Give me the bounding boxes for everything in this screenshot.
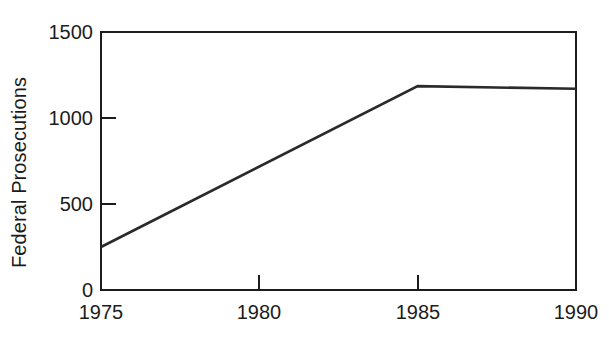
chart-figure: Federal Prosecutions 1500 1000 500 0 197…	[0, 0, 609, 345]
x-axis-ticks	[259, 275, 418, 290]
axes-frame	[101, 32, 576, 290]
y-axis-ticks	[101, 118, 116, 204]
plot-canvas	[0, 0, 609, 345]
data-line-federal-prosecutions	[101, 86, 576, 247]
axes-border	[101, 32, 576, 290]
